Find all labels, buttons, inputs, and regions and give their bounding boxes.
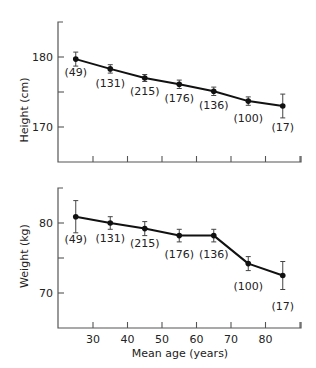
data-point <box>176 233 182 239</box>
sample-size-label: (17) <box>271 300 294 313</box>
height-panel: 170180(49)(131)(215)(176)(136)(100)(17) <box>32 22 301 162</box>
y-tick-label: 170 <box>32 121 53 134</box>
x-tick-label: 30 <box>86 333 100 346</box>
x-tick-label: 80 <box>259 333 273 346</box>
data-point <box>107 66 113 72</box>
data-point <box>176 82 182 88</box>
figure: 170180(49)(131)(215)(176)(136)(100)(17) … <box>0 0 316 368</box>
height-y-axis-label: Height (cm) <box>18 77 31 142</box>
data-point <box>211 89 217 95</box>
data-point <box>280 103 286 109</box>
sample-size-label: (176) <box>164 92 194 105</box>
data-point <box>107 220 113 226</box>
sample-size-label: (136) <box>199 99 229 112</box>
data-point <box>73 56 79 62</box>
data-point <box>73 214 79 220</box>
sample-size-label: (215) <box>130 85 160 98</box>
sample-size-label: (49) <box>64 233 87 246</box>
x-tick-label: 60 <box>190 333 204 346</box>
data-point <box>245 98 251 104</box>
y-tick-label: 80 <box>39 217 53 230</box>
x-tick-label: 50 <box>155 333 169 346</box>
data-point <box>245 261 251 267</box>
data-point <box>142 226 148 232</box>
sample-size-label: (131) <box>95 232 125 245</box>
sample-size-label: (49) <box>64 66 87 79</box>
x-axis-label: Mean age (years) <box>132 347 228 360</box>
sample-size-label: (131) <box>95 77 125 90</box>
sample-size-label: (100) <box>233 112 263 125</box>
y-tick-label: 180 <box>32 51 53 64</box>
y-tick-label: 70 <box>39 287 53 300</box>
x-tick-label: 40 <box>121 333 135 346</box>
weight-panel: 7080304050607080(49)(131)(215)(176)(136)… <box>39 188 301 346</box>
weight-series-line <box>76 217 283 276</box>
x-tick-label: 70 <box>224 333 238 346</box>
data-point <box>211 233 217 239</box>
sample-size-label: (215) <box>130 237 160 250</box>
sample-size-label: (17) <box>271 121 294 134</box>
sample-size-label: (136) <box>199 248 229 261</box>
data-point <box>280 273 286 279</box>
data-point <box>142 75 148 81</box>
sample-size-label: (176) <box>164 248 194 261</box>
weight-y-axis-label: Weight (kg) <box>18 224 31 288</box>
sample-size-label: (100) <box>233 280 263 293</box>
